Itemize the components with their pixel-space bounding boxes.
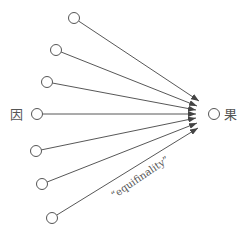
cause-node-2 — [51, 45, 62, 56]
cause-node-6 — [37, 179, 48, 190]
cause-label: 因 — [10, 107, 23, 122]
cause-node-3 — [42, 77, 53, 88]
arrow-2 — [61, 52, 197, 106]
arrow-1 — [79, 21, 199, 101]
cause-node-5 — [31, 146, 42, 157]
arrow-3 — [52, 83, 196, 110]
effect-node — [209, 109, 220, 120]
cause-node-1 — [69, 13, 80, 24]
cause-node-7 — [47, 213, 58, 224]
arrow-6 — [47, 123, 197, 182]
arrow-7 — [57, 128, 198, 215]
equifinality-diagram: 因 果 “equifinality” — [0, 0, 243, 231]
cause-node-4 — [32, 109, 43, 120]
arrow-5 — [41, 118, 196, 150]
source-nodes — [31, 13, 80, 224]
effect-label: 果 — [224, 107, 237, 122]
